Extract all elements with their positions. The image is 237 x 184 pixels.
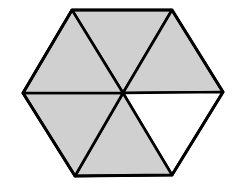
- center-point: [121, 91, 125, 95]
- hexagon-diagram: [0, 0, 237, 184]
